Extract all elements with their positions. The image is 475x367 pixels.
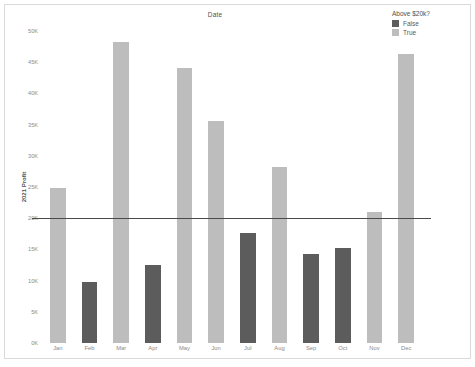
- x-axis-label-mar: Mar: [105, 345, 137, 351]
- legend-item-false[interactable]: False: [392, 20, 464, 27]
- bar-may[interactable]: [177, 68, 193, 343]
- y-axis-tick: 15K: [28, 246, 38, 252]
- bar-jan[interactable]: [50, 188, 66, 343]
- x-axis-label-sep: Sep: [295, 345, 327, 351]
- bar-nov[interactable]: [367, 212, 383, 343]
- x-axis-label-aug: Aug: [264, 345, 296, 351]
- x-axis-label-may: May: [169, 345, 201, 351]
- bar-jul[interactable]: [240, 233, 256, 343]
- bar-mar[interactable]: [113, 42, 129, 343]
- bar-group: Oct: [327, 31, 359, 343]
- bar-group: Dec: [390, 31, 422, 343]
- y-axis-tick: 40K: [28, 90, 38, 96]
- bar-apr[interactable]: [145, 265, 161, 343]
- y-axis-tick: 50K: [28, 28, 38, 34]
- bar-jun[interactable]: [208, 121, 224, 343]
- reference-line-20k: [32, 218, 431, 219]
- visualization-container: Date Above $20k? False True 2021 Profit …: [4, 4, 471, 359]
- column-title: Date: [5, 11, 425, 18]
- bar-group: Apr: [137, 31, 169, 343]
- y-axis-tick: 35K: [28, 122, 38, 128]
- bar-sep[interactable]: [303, 254, 319, 343]
- y-axis: 0K5K10K15K20K25K30K35K40K45K50K: [5, 31, 42, 343]
- y-axis-tick: 30K: [28, 153, 38, 159]
- x-axis-label-jul: Jul: [232, 345, 264, 351]
- bar-group: Sep: [295, 31, 327, 343]
- y-axis-tick: 45K: [28, 59, 38, 65]
- bar-aug[interactable]: [272, 167, 288, 343]
- legend-title: Above $20k?: [392, 10, 464, 17]
- x-axis-label-jan: Jan: [42, 345, 74, 351]
- bar-group: May: [169, 31, 201, 343]
- x-axis-label-apr: Apr: [137, 345, 169, 351]
- legend-label-false: False: [403, 20, 419, 27]
- x-axis-label-oct: Oct: [327, 345, 359, 351]
- bars-container: JanFebMarAprMayJunJulAugSepOctNovDec: [42, 31, 422, 343]
- bar-group: Jan: [42, 31, 74, 343]
- bar-group: Nov: [359, 31, 391, 343]
- y-axis-tick: 25K: [28, 184, 38, 190]
- x-axis-label-feb: Feb: [74, 345, 106, 351]
- x-axis-label-nov: Nov: [359, 345, 391, 351]
- y-axis-tick: 10K: [28, 278, 38, 284]
- legend-swatch-false: [392, 20, 399, 27]
- bar-group: Aug: [264, 31, 296, 343]
- x-axis-label-jun: Jun: [200, 345, 232, 351]
- bar-group: Jun: [200, 31, 232, 343]
- y-axis-tick: 0K: [31, 340, 38, 346]
- y-axis-tick: 5K: [31, 309, 38, 315]
- bar-group: Feb: [74, 31, 106, 343]
- bar-feb[interactable]: [82, 282, 98, 343]
- plot-area: JanFebMarAprMayJunJulAugSepOctNovDec: [42, 31, 422, 343]
- bar-dec[interactable]: [398, 54, 414, 343]
- x-axis-label-dec: Dec: [390, 345, 422, 351]
- bar-oct[interactable]: [335, 248, 351, 343]
- bar-group: Mar: [105, 31, 137, 343]
- bar-group: Jul: [232, 31, 264, 343]
